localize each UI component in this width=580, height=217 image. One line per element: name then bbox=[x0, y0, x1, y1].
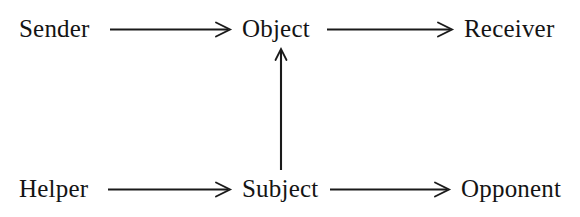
arrow-subject-to-opponent bbox=[330, 183, 449, 197]
arrow-sender-to-object bbox=[110, 23, 230, 37]
node-label-opponent: Opponent bbox=[461, 176, 561, 201]
node-label-helper: Helper bbox=[19, 176, 88, 201]
diagram-canvas: Sender Object Receiver Helper Subject Op… bbox=[0, 0, 580, 217]
arrow-object-to-receiver bbox=[327, 23, 452, 37]
node-label-receiver: Receiver bbox=[464, 16, 554, 41]
node-label-sender: Sender bbox=[19, 16, 90, 41]
node-label-object: Object bbox=[242, 16, 310, 41]
arrow-helper-to-subject bbox=[108, 183, 230, 197]
node-label-subject: Subject bbox=[242, 176, 318, 201]
arrow-subject-to-object bbox=[276, 49, 287, 170]
